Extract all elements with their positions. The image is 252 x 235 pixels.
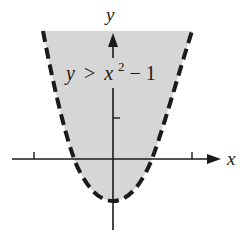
shaded-region: [43, 31, 192, 201]
inequality-base: x: [103, 62, 113, 84]
x-axis-label: x: [226, 148, 236, 169]
inequality-op: >: [84, 62, 95, 84]
inequality-lhs: y: [64, 62, 75, 85]
x-axis-arrow-icon: [207, 154, 221, 164]
y-axis-label: y: [104, 4, 115, 25]
inequality-graph: y x y > x 2 − 1: [0, 0, 252, 235]
inequality-exponent: 2: [118, 59, 125, 74]
inequality-rest: − 1: [130, 62, 156, 84]
